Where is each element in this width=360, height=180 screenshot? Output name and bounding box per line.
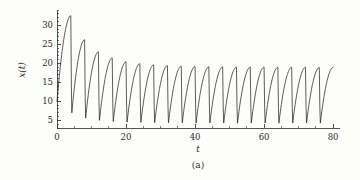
y-tick-label: 10: [42, 96, 53, 106]
y-tick-label: 5: [48, 115, 53, 125]
x-axis-label: t: [196, 144, 200, 154]
y-tick-label: 20: [42, 58, 53, 68]
series-line-xt: [57, 16, 333, 123]
figure-caption: (a): [192, 160, 204, 170]
figure-panel: 51015202530020406080 x(t) t (a): [0, 0, 360, 180]
y-tick-label: 30: [42, 20, 53, 30]
x-tick-label: 60: [259, 132, 270, 142]
y-axis-label: x(t): [17, 62, 27, 78]
x-tick-label: 20: [121, 132, 132, 142]
x-tick-label: 40: [190, 132, 201, 142]
x-tick-label: 0: [54, 132, 59, 142]
oscillation-chart: 51015202530020406080 x(t) t (a): [0, 0, 360, 180]
y-tick-label: 25: [42, 39, 53, 49]
tick-labels: 51015202530020406080: [42, 20, 338, 142]
y-tick-label: 15: [42, 77, 53, 87]
x-tick-label: 80: [328, 132, 339, 142]
